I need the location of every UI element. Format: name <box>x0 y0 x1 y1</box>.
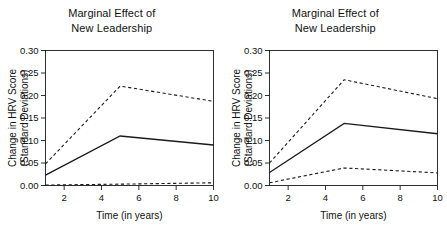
figure-two-panel-marginal-effects: Marginal Effect of New Leadership 0.000.… <box>0 0 447 230</box>
plot-box <box>269 51 437 186</box>
x-axis-title: Time (in years) <box>320 210 386 221</box>
x-tick-label: 4 <box>99 192 104 203</box>
panel-left-svg: 0.000.050.100.150.200.250.30246810Time (… <box>0 0 224 230</box>
plot-box <box>46 51 214 186</box>
y-tick-label: 0.00 <box>244 180 263 191</box>
series-line-dashed <box>46 86 214 164</box>
series-line-dashed <box>269 168 437 183</box>
y-tick-label: 0.30 <box>20 45 39 56</box>
y-tick-label: 0.00 <box>20 180 39 191</box>
panel-left-plot-area: 0.000.050.100.150.200.250.30246810Time (… <box>0 0 224 230</box>
y-axis-title-line2: (Standard Deviations) <box>19 70 30 167</box>
x-tick-label: 10 <box>432 192 443 203</box>
y-axis-title-line1: Change in HRV Score <box>230 68 241 167</box>
x-tick-label: 2 <box>285 192 290 203</box>
series-line-solid <box>269 123 437 172</box>
x-tick-label: 2 <box>62 192 67 203</box>
x-tick-label: 6 <box>360 192 365 203</box>
x-tick-label: 4 <box>322 192 327 203</box>
x-tick-label: 10 <box>208 192 219 203</box>
x-axis-title: Time (in years) <box>96 210 162 221</box>
series-line-solid <box>46 136 214 175</box>
x-tick-label: 8 <box>174 192 179 203</box>
x-tick-label: 6 <box>136 192 141 203</box>
y-axis-title-line1: Change in HRV Score <box>7 68 18 167</box>
panel-right-plot-area: 0.000.050.100.150.200.250.30246810Time (… <box>224 0 447 230</box>
x-tick-label: 8 <box>397 192 402 203</box>
panel-left: Marginal Effect of New Leadership 0.000.… <box>0 0 224 230</box>
y-tick-label: 0.30 <box>244 45 263 56</box>
series-line-dashed <box>269 80 437 163</box>
y-axis-title-line2: (Standard Deviations) <box>242 70 253 167</box>
panel-right-svg: 0.000.050.100.150.200.250.30246810Time (… <box>224 0 447 230</box>
series-line-dashed <box>46 183 214 185</box>
panel-right: Marginal Effect of New Leadership 0.000.… <box>224 0 447 230</box>
